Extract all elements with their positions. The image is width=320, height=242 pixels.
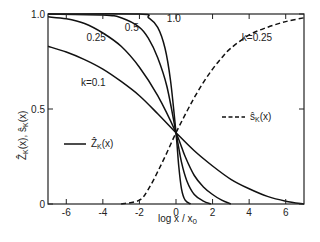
legend-item-s: ŝK(x) [222,111,271,123]
x-tick-label: -6 [62,207,71,218]
curve-s-0_25 [121,18,304,204]
curve-annotation: k=0.25 [242,32,273,43]
legend-z-label: ẐK(x) [91,137,113,150]
x-tick-label: 2 [210,207,216,218]
x-tick-label: -2 [135,207,144,218]
y-axis-label: ẐK(x), ŝK(x) [16,111,29,160]
curve-annotation: 1.0 [167,13,181,24]
y-tick-label: 0.5 [31,104,45,115]
legend-s-label: ŝK(x) [250,111,271,123]
curve-annotation: 0.25 [86,32,106,43]
legend-item-z: ẐK(x) [64,137,113,150]
curve-annotation: k=0.1 [81,77,106,88]
x-axis-label: log x / x0 [158,213,197,226]
curve-z-0_5 [48,14,211,204]
curve-z-1_0 [48,14,191,204]
x-tick-label: -4 [98,207,107,218]
curve-annotation: 0.5 [125,22,139,33]
legend: ẐK(x) ŝK(x) [64,111,271,150]
chart: -6-4-2024600.51.0 k=0.10.250.51.0k=0.25 … [0,0,320,242]
y-tick-label: 1.0 [31,9,45,20]
curve-z-0_25 [48,17,231,204]
x-tick-label: 6 [283,207,289,218]
x-tick-label: 4 [246,207,252,218]
curve-labels: k=0.10.250.51.0k=0.25 [81,13,273,89]
y-tick-label: 0 [39,199,45,210]
